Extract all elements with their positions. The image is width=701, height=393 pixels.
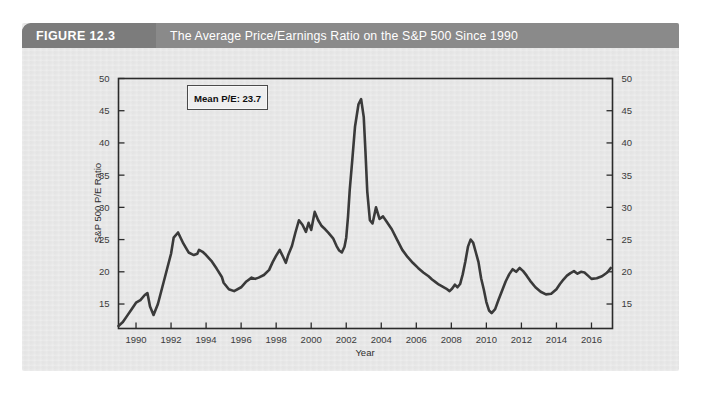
- figure-title-text: The Average Price/Earnings Ratio on the …: [156, 23, 518, 48]
- mean-pe-label: Mean P/E: 23.7: [194, 93, 261, 104]
- mean-pe-annotation: Mean P/E: 23.7: [187, 85, 268, 110]
- figure-title-bar: FIGURE 12.3 The Average Price/Earnings R…: [22, 23, 679, 48]
- figure-panel: [22, 23, 679, 371]
- figure-number-label: FIGURE 12.3: [36, 29, 115, 43]
- figure-number-tab: FIGURE 12.3: [22, 23, 156, 48]
